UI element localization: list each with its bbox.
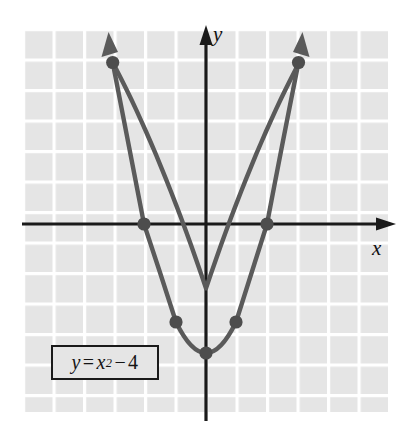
equation-variable: x [96, 351, 105, 374]
equation-label-box: y = x2 − 4 [51, 345, 159, 380]
data-point [292, 56, 305, 69]
data-point [169, 315, 182, 328]
equation-minus: − [112, 351, 128, 374]
x-axis-label: x [372, 236, 381, 261]
data-point [199, 346, 212, 359]
data-point [106, 56, 119, 69]
data-point [260, 217, 273, 230]
equation-equals: = [81, 351, 97, 374]
data-point [137, 217, 150, 230]
data-point [229, 315, 242, 328]
equation-lhs: y [72, 351, 81, 374]
graph-figure: y x y = x2 − 4 [0, 0, 409, 431]
equation-constant: 4 [128, 351, 138, 374]
y-axis-label: y [213, 22, 222, 47]
